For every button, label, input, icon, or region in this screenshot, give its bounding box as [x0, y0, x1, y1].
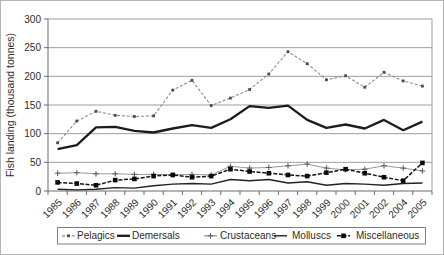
- data-point-marker: [287, 50, 290, 53]
- legend-label: Molluscs: [292, 230, 331, 241]
- y-tick-label: 300: [24, 14, 41, 25]
- data-point-marker: [113, 178, 118, 183]
- legend: PelagicsDemersalsCrustaceansMolluscsMisc…: [58, 228, 426, 245]
- data-point-marker: [228, 167, 233, 172]
- x-axis-ticks: [48, 191, 432, 195]
- data-point-marker: [341, 234, 346, 239]
- data-point-marker: [363, 171, 368, 176]
- data-point-marker: [133, 115, 136, 118]
- data-point-marker: [151, 174, 156, 179]
- data-point-marker: [132, 177, 137, 182]
- data-point-marker: [325, 78, 328, 81]
- y-axis-title: Fish landing (thousand tonnes): [4, 33, 16, 177]
- y-tick-label: 150: [24, 100, 41, 111]
- data-point-marker: [305, 174, 310, 179]
- legend-label: Miscellaneous: [356, 230, 419, 241]
- data-point-marker: [324, 170, 329, 175]
- data-point-marker: [95, 110, 98, 113]
- data-point-marker: [229, 97, 232, 100]
- legend-label: Crustaceans: [220, 230, 276, 241]
- data-point-marker: [382, 175, 387, 180]
- data-point-marker: [94, 183, 99, 188]
- data-point-marker: [210, 104, 213, 107]
- data-point-marker: [152, 114, 155, 117]
- data-point-marker: [67, 234, 70, 237]
- data-point-marker: [209, 174, 214, 179]
- data-point-marker: [114, 114, 117, 117]
- legend-label: Demersals: [132, 230, 180, 241]
- data-point-marker: [55, 180, 60, 185]
- y-tick-label: 50: [30, 157, 42, 168]
- y-tick-label: 100: [24, 128, 41, 139]
- data-point-marker: [420, 161, 425, 166]
- data-point-marker: [248, 88, 251, 91]
- data-point-marker: [343, 167, 348, 172]
- data-point-marker: [383, 71, 386, 74]
- data-point-marker: [190, 175, 195, 180]
- fish-landing-chart-figure: 0501001502002503001985198619871988198919…: [0, 0, 444, 255]
- data-point-marker: [286, 173, 291, 178]
- data-point-marker: [267, 73, 270, 76]
- data-point-marker: [75, 181, 80, 186]
- data-point-marker: [344, 74, 347, 77]
- data-point-marker: [56, 141, 59, 144]
- data-point-marker: [191, 79, 194, 82]
- data-point-marker: [171, 89, 174, 92]
- data-point-marker: [402, 80, 405, 83]
- data-point-marker: [306, 62, 309, 65]
- fish-landing-line-chart: 0501001502002503001985198619871988198919…: [0, 0, 444, 255]
- data-point-marker: [401, 178, 406, 183]
- data-point-marker: [267, 171, 272, 176]
- data-point-marker: [247, 169, 252, 174]
- y-tick-label: 0: [35, 186, 41, 197]
- data-point-marker: [421, 85, 424, 88]
- data-point-marker: [171, 173, 176, 178]
- y-tick-label: 200: [24, 71, 41, 82]
- data-point-marker: [75, 120, 78, 123]
- legend-label: Pelagics: [77, 230, 115, 241]
- y-tick-label: 250: [24, 42, 41, 53]
- data-point-marker: [363, 86, 366, 89]
